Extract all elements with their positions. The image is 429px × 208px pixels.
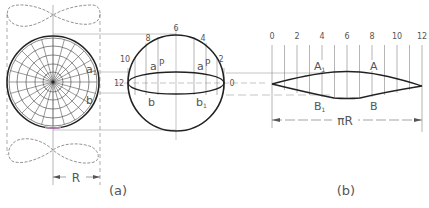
lune-tick-6: 6 (344, 32, 349, 41)
lune-tick-0: 0 (269, 32, 274, 41)
sphere-label-b1: b1 (196, 96, 207, 109)
lune-tick-4: 4 (319, 32, 324, 41)
r-arrow-right (93, 175, 100, 179)
sphere-label-a-P: P (159, 58, 165, 68)
lune-label-B: B (370, 100, 378, 113)
sphere-label-b: b (148, 96, 155, 109)
caption-b: (b) (337, 183, 355, 198)
sphere-label-4: 4 (200, 34, 205, 43)
label-b-polar: b (86, 94, 93, 107)
sphere-label-a1-P: P (205, 58, 211, 68)
sphere-label-a1: a (197, 60, 204, 73)
r-arrow-left (53, 175, 60, 179)
caption-a: (a) (109, 183, 127, 198)
sphere-label-a: a (150, 60, 157, 73)
lune-tick-12: 12 (417, 32, 427, 41)
pir-arrow-left (272, 118, 280, 122)
polar-view: a1 b R (7, 5, 176, 185)
pir-arrow-right (414, 118, 422, 122)
lune-label-A: A (370, 60, 378, 73)
bottom-accent-mark (45, 128, 61, 129)
lune-tick-8: 8 (369, 32, 374, 41)
sphere-label-0: 0 (229, 79, 234, 88)
sphere-label-8: 8 (145, 34, 150, 43)
sphere-label-10: 10 (120, 55, 130, 64)
sphere-view: 6 8 4 10 2 12 0 a P a P b b1 (a) (109, 24, 265, 198)
lune-tick-10: 10 (392, 32, 402, 41)
lune-development: 0 2 4 6 8 10 12 A1 A B1 B πR (b) (269, 32, 427, 198)
sphere-label-2: 2 (218, 55, 223, 64)
sphere-label-6: 6 (173, 24, 178, 33)
sphere-label-12: 12 (114, 79, 124, 88)
lune-tick-2: 2 (294, 32, 299, 41)
polar-center-dot (52, 81, 55, 84)
pir-dimension-label: πR (337, 114, 353, 128)
r-dimension-label: R (72, 171, 80, 185)
bottom-loop-curve (9, 139, 99, 163)
top-loop-curve (7, 5, 100, 26)
projection-lines-right (226, 73, 330, 95)
sphere-development-diagram: a1 b R (0, 0, 429, 208)
